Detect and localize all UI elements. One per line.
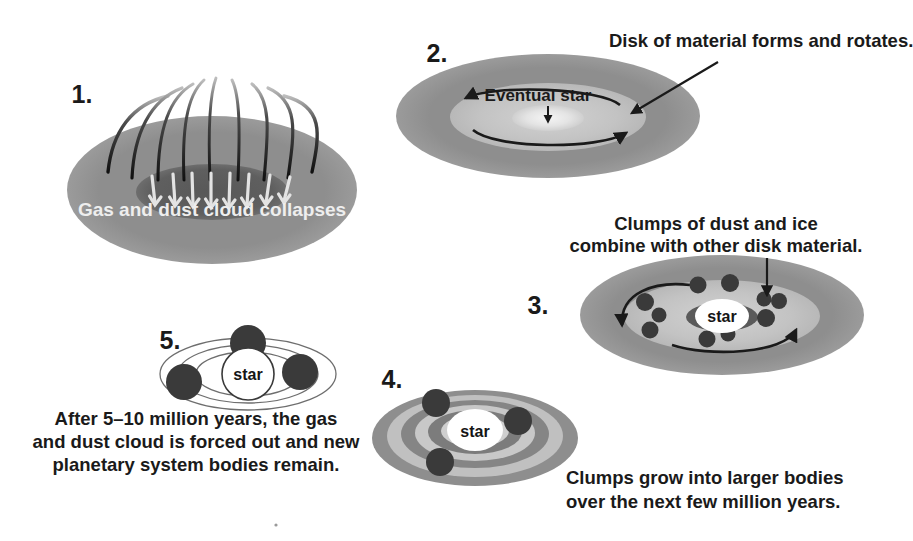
stage-3-star-label: star <box>707 308 736 325</box>
stage-5-number: 5. <box>160 326 181 354</box>
stage-3-group: star 3. Clumps of dust and ice combine w… <box>528 213 864 375</box>
formation-diagram-canvas: 1. Gas and dust cloud collapses 2. Disk … <box>0 0 913 541</box>
stage-1-inner-label: Gas and dust cloud collapses <box>78 199 346 220</box>
clump <box>721 274 739 292</box>
clump <box>636 293 654 311</box>
stage-2-number: 2. <box>427 39 448 67</box>
diagram-root: 1. Gas and dust cloud collapses 2. Disk … <box>0 0 913 541</box>
stage-5-group: star 5. After 5–10 million years, the ga… <box>33 325 360 475</box>
stage-3-caption-line-1: Clumps of dust and ice <box>614 213 818 234</box>
stage-1-group: 1. Gas and dust cloud collapses <box>67 78 357 264</box>
stage-2-group: 2. Disk of material forms and rotates. E… <box>396 30 913 178</box>
stage-5-caption-line-1: After 5–10 million years, the gas <box>55 408 338 429</box>
stage-5-caption-line-2: and dust cloud is forced out and new <box>33 431 360 452</box>
clump <box>690 277 707 294</box>
clump <box>757 309 775 327</box>
stage-4-caption-line-2: over the next few million years. <box>566 491 841 512</box>
stage-2-eventual-star-label: Eventual star <box>485 86 592 105</box>
stage-3-number: 3. <box>528 291 549 319</box>
clump <box>757 292 772 307</box>
scan-speck-artifact <box>274 523 277 526</box>
clump <box>652 308 667 323</box>
stage-4-number: 4. <box>382 365 403 393</box>
stage-4-star-label: star <box>460 423 489 440</box>
clump <box>699 331 716 348</box>
stage-1-number: 1. <box>72 80 93 108</box>
stage-4-group: star 4. Clumps grow into larger bodies o… <box>372 365 844 512</box>
stage-5-planet <box>166 364 202 400</box>
stage-4-caption-line-1: Clumps grow into larger bodies <box>566 467 844 488</box>
stage-5-caption-line-3: planetary system bodies remain. <box>53 454 340 475</box>
stage-2-callout-label: Disk of material forms and rotates. <box>609 30 913 51</box>
stage-4-planet <box>504 407 532 435</box>
stage-4-planet <box>426 448 454 476</box>
stage-5-star-label: star <box>233 366 262 383</box>
clump <box>642 322 659 339</box>
stage-3-caption-line-2: combine with other disk material. <box>570 235 863 256</box>
clump <box>771 293 787 309</box>
stage-5-planet <box>282 354 318 390</box>
stage-4-planet <box>422 389 450 417</box>
